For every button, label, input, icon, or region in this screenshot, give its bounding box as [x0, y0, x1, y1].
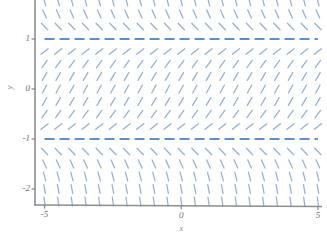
slope-segment — [112, 172, 114, 181]
slope-segment — [98, 0, 100, 6]
slope-segment — [139, 185, 141, 194]
slope-segment — [56, 60, 61, 67]
slope-segment — [151, 60, 156, 67]
slope-segment — [97, 85, 101, 93]
slope-segment — [193, 85, 197, 93]
slope-segment — [274, 60, 279, 67]
slope-segment — [153, 0, 155, 6]
slope-segment — [56, 98, 61, 106]
slope-segment — [219, 124, 226, 130]
slope-segment — [233, 60, 238, 67]
slope-segment — [303, 172, 305, 181]
slope-segment — [261, 160, 265, 168]
slope-segment — [83, 110, 88, 117]
slope-segment — [261, 73, 266, 81]
slope-segment — [205, 124, 212, 130]
slope-segment — [287, 148, 293, 154]
slope-segment — [125, 0, 127, 6]
slope-segment — [193, 73, 198, 81]
slope-segment — [164, 49, 171, 55]
slope-segment — [137, 23, 143, 29]
slope-segment — [234, 10, 238, 18]
slope-segment — [219, 49, 226, 55]
slope-segment — [84, 10, 88, 18]
slope-segment — [112, 185, 114, 194]
slope-segment — [232, 49, 239, 55]
slope-segment — [137, 49, 144, 55]
slope-segment — [207, 10, 211, 18]
slope-segment — [246, 124, 253, 130]
slope-segment — [125, 160, 129, 168]
slope-segment — [43, 172, 45, 181]
slope-segment — [275, 160, 279, 168]
slope-segment — [206, 110, 211, 117]
slope-segment — [207, 160, 211, 168]
slope-segment — [96, 23, 102, 29]
slope-segment — [233, 23, 239, 29]
slope-segment — [248, 0, 250, 6]
slope-segment — [82, 23, 88, 29]
slope-segment — [111, 73, 116, 81]
slope-segment — [180, 0, 182, 6]
slope-segment — [139, 172, 141, 181]
slope-segment — [151, 148, 157, 154]
slope-segment — [85, 185, 87, 194]
slope-segment — [178, 148, 184, 154]
slope-segment — [165, 98, 170, 106]
slope-segment — [290, 197, 291, 206]
slope-segment — [56, 85, 60, 93]
slope-segment — [260, 148, 266, 154]
slope-segment — [260, 49, 267, 55]
slope-segment — [205, 148, 211, 154]
slope-segment — [82, 148, 88, 154]
slope-segment — [57, 172, 59, 181]
slope-segment — [96, 49, 103, 55]
slope-segment — [220, 73, 225, 81]
slope-segment — [235, 197, 236, 206]
slope-segment — [234, 98, 239, 106]
slope-segment — [274, 148, 280, 154]
slope-segment — [247, 85, 251, 93]
slope-segment — [262, 172, 264, 181]
slope-segment — [302, 60, 307, 67]
slope-segment — [191, 124, 198, 130]
slope-segment — [110, 60, 115, 67]
slope-segment — [138, 10, 142, 18]
slope-segment — [111, 10, 115, 18]
slope-segment — [247, 60, 252, 67]
slope-segment — [124, 98, 129, 106]
slope-segment — [125, 10, 129, 18]
slope-segment — [207, 172, 209, 181]
slope-segment — [140, 197, 141, 206]
slope-segment — [261, 85, 265, 93]
slope-segment — [165, 110, 170, 117]
slope-segment — [194, 0, 196, 6]
slope-segment — [57, 0, 59, 6]
slope-segment — [289, 0, 291, 6]
slope-segment — [221, 172, 223, 181]
slope-segment — [43, 0, 45, 6]
slope-segment — [302, 85, 306, 93]
slope-segment — [56, 73, 61, 81]
slope-segment — [166, 10, 170, 18]
slope-segment — [289, 160, 293, 168]
slope-segment — [70, 85, 74, 93]
slope-segment — [56, 10, 60, 18]
slope-segment — [125, 172, 127, 181]
slope-segment — [42, 60, 47, 67]
slope-segment — [192, 110, 197, 117]
slope-segment — [41, 49, 48, 55]
slope-segment — [181, 197, 182, 206]
slope-segment — [191, 49, 198, 55]
slope-segment — [276, 0, 278, 6]
slope-segment — [234, 85, 238, 93]
slope-segment — [314, 49, 321, 55]
slope-segment — [165, 60, 170, 67]
slope-segment — [248, 10, 252, 18]
slope-segment — [178, 23, 184, 29]
slope-segment — [206, 73, 211, 81]
slope-segment — [69, 60, 74, 67]
slope-segment — [302, 98, 307, 106]
slope-segment — [234, 160, 238, 168]
slope-segment — [317, 0, 319, 6]
